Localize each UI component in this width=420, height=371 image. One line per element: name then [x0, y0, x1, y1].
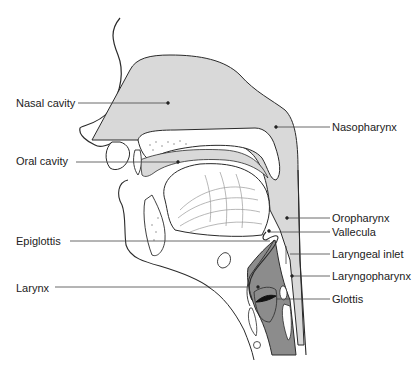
label-nasal-cavity: Nasal cavity	[16, 97, 75, 109]
label-epiglottis: Epiglottis	[16, 235, 61, 247]
label-laryngopharynx: Laryngopharynx	[332, 270, 411, 282]
upper-incisor	[134, 150, 142, 175]
label-oropharynx: Oropharynx	[332, 212, 389, 224]
arytenoid-cartilage	[280, 286, 287, 300]
label-laryngeal-inlet: Laryngeal inlet	[332, 248, 404, 260]
label-vallecula: Vallecula	[332, 226, 376, 238]
anatomy-diagram	[0, 0, 420, 371]
anterior-cartilage	[248, 308, 256, 336]
label-glottis: Glottis	[332, 293, 363, 305]
tracheal-ring	[254, 342, 261, 349]
upper-lip	[106, 142, 130, 170]
label-larynx: Larynx	[16, 282, 49, 294]
hyoid-bone	[218, 253, 231, 268]
label-nasopharynx: Nasopharynx	[332, 121, 397, 133]
lower-incisor	[144, 195, 165, 256]
label-oral-cavity: Oral cavity	[16, 155, 68, 167]
